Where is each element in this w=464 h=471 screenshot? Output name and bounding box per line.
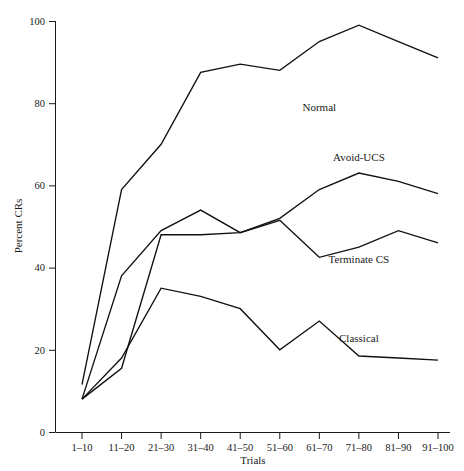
x-axis-title: Trials bbox=[240, 454, 265, 466]
y-tick-label: 100 bbox=[29, 16, 45, 27]
x-tick-label: 71–80 bbox=[346, 442, 372, 453]
y-tick-label: 80 bbox=[35, 98, 46, 109]
y-axis-title: Percent CRs bbox=[12, 199, 24, 254]
y-tick-label: 20 bbox=[35, 345, 46, 356]
series-line-classical bbox=[82, 288, 438, 399]
x-axis-ticks bbox=[82, 433, 438, 440]
y-tick-label: 0 bbox=[40, 427, 45, 438]
x-tick-label: 61–70 bbox=[306, 442, 332, 453]
x-tick-label: 21–30 bbox=[148, 442, 174, 453]
series-label-normal: Normal bbox=[303, 101, 337, 113]
y-tick-label: 40 bbox=[35, 262, 46, 273]
x-tick-label: 1–10 bbox=[72, 442, 93, 453]
series-label-terminate-cs: Terminate CS bbox=[329, 253, 390, 265]
chart-figure: 020406080100 1–1011–2021–3031–4041–5051–… bbox=[0, 0, 464, 471]
x-tick-label: 31–40 bbox=[188, 442, 214, 453]
x-tick-label: 51–60 bbox=[267, 442, 293, 453]
x-axis-tick-labels: 1–1011–2021–3031–4041–5051–6061–7071–808… bbox=[72, 442, 454, 453]
series-label-classical: Classical bbox=[339, 332, 379, 344]
series-lines bbox=[82, 25, 438, 399]
series-line-avoid-ucs bbox=[82, 173, 438, 399]
series-line-normal bbox=[82, 25, 438, 385]
y-tick-label: 60 bbox=[35, 180, 46, 191]
line-chart: 020406080100 1–1011–2021–3031–4041–5051–… bbox=[0, 0, 464, 471]
x-tick-label: 81–90 bbox=[385, 442, 411, 453]
x-tick-label: 11–20 bbox=[109, 442, 135, 453]
x-tick-label: 91–100 bbox=[422, 442, 454, 453]
series-labels: NormalAvoid-UCSTerminate CSClassical bbox=[303, 101, 390, 343]
series-line-terminate-cs bbox=[82, 210, 438, 399]
x-tick-label: 41–50 bbox=[227, 442, 253, 453]
y-axis-tick-labels: 020406080100 bbox=[29, 16, 45, 438]
series-label-avoid-ucs: Avoid-UCS bbox=[333, 151, 385, 163]
y-axis-ticks bbox=[49, 22, 56, 433]
